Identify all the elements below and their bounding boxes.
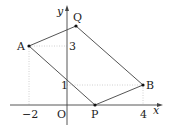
quadrilateral-APBQ bbox=[29, 26, 143, 105]
tick-label-3: 3 bbox=[69, 40, 76, 53]
point-A bbox=[27, 44, 30, 47]
label-y-axis: y bbox=[56, 5, 64, 18]
label-x-axis: x bbox=[153, 104, 160, 117]
label-A: A bbox=[16, 40, 26, 53]
label-Q: Q bbox=[73, 11, 82, 24]
y-axis-arrow-icon bbox=[65, 5, 69, 11]
label-origin: O bbox=[57, 108, 66, 121]
label-P: P bbox=[91, 108, 99, 121]
tick-label-4: 4 bbox=[140, 108, 147, 121]
points bbox=[27, 24, 144, 106]
point-Q bbox=[74, 24, 77, 27]
tick-label-1: 1 bbox=[61, 79, 68, 92]
label-B: B bbox=[146, 79, 154, 92]
tick-label-neg2: −2 bbox=[22, 108, 38, 121]
point-B bbox=[141, 83, 144, 86]
coordinate-diagram: A Q B P x y O −2 4 1 3 bbox=[0, 0, 170, 132]
guide-lines bbox=[29, 46, 143, 105]
point-P bbox=[93, 103, 96, 106]
